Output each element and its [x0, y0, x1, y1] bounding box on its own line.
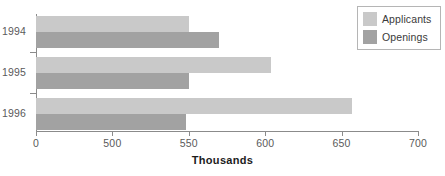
x-tick-mark [36, 131, 37, 136]
y-tick-mark [30, 93, 36, 94]
x-tick-label: 600 [256, 137, 274, 149]
chart-legend: Applicants Openings [357, 6, 441, 50]
x-tick-mark [112, 131, 113, 136]
bar-chart: 0500550600650700 199419951996 Thousands … [0, 0, 445, 176]
x-tick-mark [189, 131, 190, 136]
legend-swatch-openings [363, 30, 377, 44]
legend-item-openings: Openings [363, 29, 436, 45]
bar-openings-1994 [36, 32, 219, 48]
x-tick-mark [265, 131, 266, 136]
bar-openings-1996 [36, 114, 186, 130]
x-tick-label: 550 [180, 137, 198, 149]
x-tick-label: 500 [103, 137, 121, 149]
legend-item-applicants: Applicants [363, 11, 436, 27]
legend-label-openings: Openings [382, 31, 428, 43]
x-axis-line [36, 131, 419, 132]
x-tick-mark [418, 131, 419, 136]
y-tick-label: 1996 [2, 107, 26, 119]
legend-swatch-applicants [363, 12, 377, 26]
x-tick-label: 700 [409, 137, 427, 149]
bar-openings-1995 [36, 73, 189, 89]
bar-applicants-1996 [36, 98, 352, 114]
bar-applicants-1995 [36, 57, 271, 73]
x-tick-label: 0 [33, 137, 39, 149]
x-tick-mark [342, 131, 343, 136]
bar-applicants-1994 [36, 16, 189, 32]
y-tick-label: 1995 [2, 66, 26, 78]
y-tick-label: 1994 [2, 25, 26, 37]
y-tick-mark [30, 52, 36, 53]
legend-label-applicants: Applicants [382, 13, 431, 25]
x-axis-title: Thousands [0, 154, 445, 166]
x-tick-label: 650 [333, 137, 351, 149]
